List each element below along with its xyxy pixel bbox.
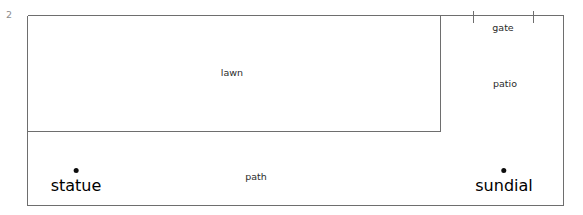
marker-label-statue: statue <box>51 176 102 195</box>
garden-plan-figure: 2 lawn patio path gate statue <box>0 0 583 215</box>
region-label-lawn: lawn <box>221 68 243 78</box>
marker-statue: statue <box>51 168 102 195</box>
region-label-path: path <box>245 172 267 182</box>
marker-sundial: sundial <box>475 168 532 195</box>
marker-label-sundial: sundial <box>475 176 532 195</box>
opening-label-gate: gate <box>492 23 513 33</box>
sundial-dot-icon <box>502 168 507 173</box>
statue-dot-icon <box>73 168 78 173</box>
region-label-patio: patio <box>493 79 517 89</box>
